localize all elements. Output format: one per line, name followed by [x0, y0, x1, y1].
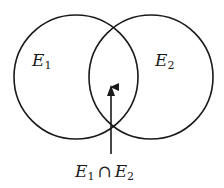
venn-diagram: E1 E2 E1∩E2: [0, 0, 224, 188]
set-e2-label: E2: [154, 50, 174, 72]
intersection-label: E1∩E2: [74, 161, 134, 183]
set-e1-circle: [14, 15, 138, 139]
arrowhead-icon: [107, 85, 115, 96]
set-e2-circle: [89, 15, 213, 139]
set-e1-label: E1: [31, 50, 51, 72]
